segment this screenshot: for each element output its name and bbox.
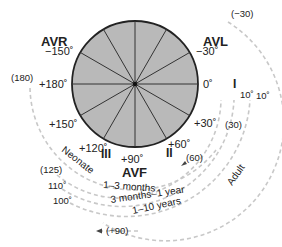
lead-i-label: I bbox=[233, 77, 236, 91]
lead-avf-label: AVF bbox=[122, 165, 147, 180]
arrow-icon bbox=[96, 229, 102, 234]
range-value-30: (30) bbox=[225, 119, 242, 130]
range-value-100: 100˚ bbox=[53, 195, 72, 206]
range-value-125: (125) bbox=[40, 164, 62, 175]
angle-plus150: +150˚ bbox=[49, 118, 77, 130]
angle-minus30: −30˚ bbox=[196, 45, 218, 57]
angle-zero: 0˚ bbox=[203, 78, 213, 90]
hexaxial-diagram: AVR AVL AVF I II III −150˚ −30˚ +180˚ 0˚… bbox=[0, 0, 282, 247]
range-value-10a: 10˚ bbox=[240, 89, 254, 100]
range-value-110: 110˚ bbox=[48, 180, 66, 191]
range-value-60: (60) bbox=[186, 152, 203, 163]
range-value-180: (180) bbox=[11, 72, 33, 83]
angle-plus90: +90˚ bbox=[121, 153, 143, 165]
hexaxial-circle bbox=[72, 21, 198, 147]
angle-plus180: +180˚ bbox=[39, 78, 67, 90]
angle-plus30: +30˚ bbox=[194, 117, 216, 129]
range-value-minus30: (−30) bbox=[231, 8, 253, 19]
angle-plus60: +60˚ bbox=[168, 138, 190, 150]
range-value-plus90: (+90) bbox=[106, 225, 128, 236]
range-value-10b: 10˚ bbox=[256, 90, 270, 101]
angle-minus150: −150˚ bbox=[45, 45, 73, 57]
angle-plus120: +120˚ bbox=[79, 142, 107, 154]
age-label-adult: Adult bbox=[225, 162, 247, 187]
